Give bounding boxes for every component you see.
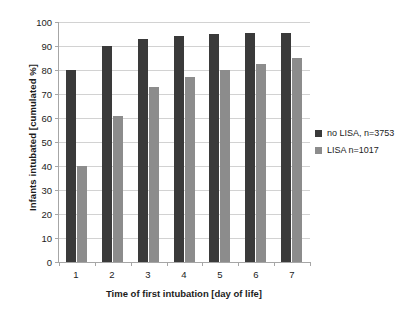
y-tick-label: 80 [41, 65, 52, 76]
bar [209, 34, 219, 262]
legend-item: LISA n=1017 [315, 145, 394, 155]
x-tick-label: 4 [166, 269, 202, 280]
y-tick-label: 10 [41, 233, 52, 244]
bar [281, 33, 291, 262]
y-tick-label: 60 [41, 113, 52, 124]
x-tick-mark [131, 262, 132, 266]
y-tick-label: 0 [47, 257, 52, 268]
bar [113, 116, 123, 262]
bar [77, 166, 87, 262]
y-tick-label: 90 [41, 41, 52, 52]
bar-group [202, 22, 238, 262]
bar [185, 77, 195, 262]
x-axis-tick-labels: 1234567 [58, 269, 310, 280]
x-tick-label: 7 [274, 269, 310, 280]
bars-layer [59, 22, 310, 262]
y-tick-label: 100 [36, 17, 52, 28]
chart-legend: no LISA, n=3753LISA n=1017 [315, 128, 394, 162]
bar [220, 70, 230, 262]
bar [149, 87, 159, 262]
bar [174, 36, 184, 262]
x-tick-label: 6 [238, 269, 274, 280]
x-tick-mark [274, 262, 275, 266]
y-tick-label: 30 [41, 185, 52, 196]
legend-item: no LISA, n=3753 [315, 128, 394, 138]
x-tick-mark [95, 262, 96, 266]
bar [102, 46, 112, 262]
x-tick-mark [202, 262, 203, 266]
y-tick-label: 20 [41, 209, 52, 220]
bar-group [274, 22, 310, 262]
x-tick-mark [310, 262, 311, 266]
x-axis-title: Time of first intubation [day of life] [38, 288, 330, 299]
y-tick-label: 50 [41, 137, 52, 148]
y-tick-label: 40 [41, 161, 52, 172]
x-tick-label: 1 [58, 269, 94, 280]
bar [138, 39, 148, 262]
x-tick-label: 2 [94, 269, 130, 280]
bar [66, 70, 76, 262]
x-tick-mark [238, 262, 239, 266]
bar-group [238, 22, 274, 262]
y-axis-title: Infants intubated [cumulated %] [27, 28, 38, 248]
x-tick-label: 5 [202, 269, 238, 280]
x-tick-mark [59, 262, 60, 266]
legend-label: LISA n=1017 [327, 145, 379, 155]
bar-chart: Infants intubated [cumulated %] 10090807… [0, 0, 413, 310]
bar [245, 33, 255, 262]
legend-label: no LISA, n=3753 [327, 128, 394, 138]
bar-group [59, 22, 95, 262]
bar-group [95, 22, 131, 262]
x-tick-label: 3 [130, 269, 166, 280]
legend-swatch-icon [315, 130, 322, 137]
plot-area: 1009080706050403020100 [58, 22, 310, 263]
x-tick-mark [167, 262, 168, 266]
bar-group [131, 22, 167, 262]
bar-group [167, 22, 203, 262]
y-tick-label: 70 [41, 89, 52, 100]
legend-swatch-icon [315, 147, 322, 154]
bar [292, 58, 302, 262]
bar [256, 64, 266, 262]
